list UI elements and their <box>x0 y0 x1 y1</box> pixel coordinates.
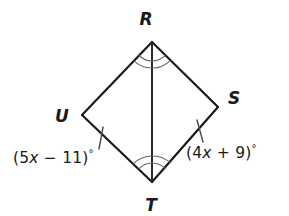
arc-T-left-outer <box>134 156 153 164</box>
angle-expression-right: (4x + 9)° <box>186 143 257 162</box>
expr-left-variable: x <box>29 149 38 167</box>
expr-right-variable: x <box>202 144 211 162</box>
arc-R-left-outer <box>134 61 152 68</box>
expr-right-constant: 9 <box>235 144 245 162</box>
side-RU <box>82 42 152 115</box>
tick-mark-side-UT <box>99 127 103 149</box>
expr-left-coefficient: 5 <box>19 149 29 167</box>
arc-R-right-outer <box>152 60 170 68</box>
arc-T-left-inner <box>139 163 153 169</box>
arc-T-right-outer <box>152 156 171 163</box>
kite-geometry-svg: R S T U <box>0 0 289 216</box>
arc-R-right-inner <box>152 55 165 61</box>
angle-expression-left: (5x − 11)° <box>13 148 94 167</box>
expr-left-degree-symbol: ° <box>89 148 94 159</box>
vertex-label-R: R <box>139 9 152 29</box>
vertex-label-S: S <box>228 88 240 108</box>
expr-left-constant: 11 <box>62 149 82 167</box>
expr-right-operator: + <box>217 144 230 162</box>
side-RS <box>152 42 218 107</box>
expr-right-coefficient: 4 <box>192 144 202 162</box>
kite-diagram-figure: R S T U (5x − 11)° (4x + 9)° <box>0 0 289 216</box>
vertex-label-U: U <box>55 106 69 126</box>
vertex-label-T: T <box>145 195 158 215</box>
expr-left-operator: − <box>44 149 57 167</box>
expr-right-degree-symbol: ° <box>251 143 256 154</box>
arc-R-left-inner <box>139 56 152 62</box>
